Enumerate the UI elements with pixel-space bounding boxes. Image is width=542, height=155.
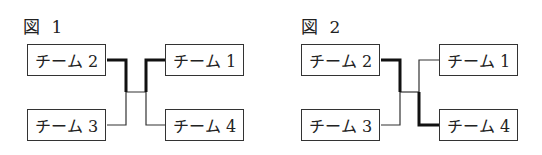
team-box-left-bottom: チーム 3 [27, 109, 106, 141]
team-box-right-bottom: チーム 4 [165, 109, 244, 141]
team-box-left-bottom: チーム 3 [301, 109, 380, 141]
team-box-right-bottom: チーム 4 [439, 109, 518, 141]
figure-1: 図 1 チーム 2 チーム 3 チーム 1 チーム 4 [0, 0, 271, 155]
team-box-right-top: チーム 1 [439, 44, 518, 76]
figure-2: 図 2 チーム 2 チーム 3 チーム 1 チーム 4 [271, 0, 542, 155]
team-box-left-top: チーム 2 [27, 44, 106, 76]
team-box-right-top: チーム 1 [165, 44, 244, 76]
team-box-left-top: チーム 2 [301, 44, 380, 76]
